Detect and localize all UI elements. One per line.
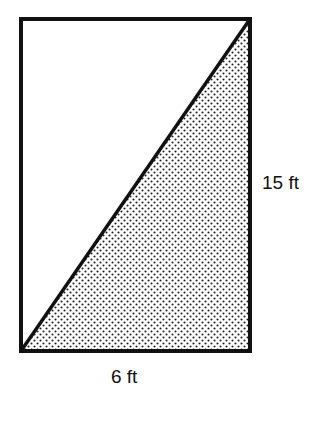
width-label: 6 ft xyxy=(111,366,138,387)
height-label: 15 ft xyxy=(262,172,300,193)
rectangle-diagram: 15 ft 6 ft xyxy=(0,0,328,421)
